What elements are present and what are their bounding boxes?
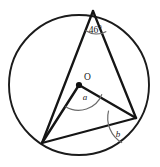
central-angle-label-a: a <box>83 92 88 102</box>
inscribed-angle-label-b: b <box>116 129 121 139</box>
center-label-o: O <box>84 72 91 82</box>
apex-angle-label-46: 46° <box>89 25 103 35</box>
center-point-dot <box>76 82 82 88</box>
geometry-figure: O 46° a b <box>0 0 160 167</box>
geometry-canvas: O 46° a b <box>0 0 160 167</box>
